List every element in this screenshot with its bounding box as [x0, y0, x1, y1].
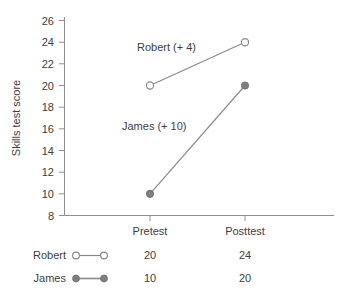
y-tick-label-10: 10 — [42, 188, 54, 200]
annotation-robert: Robert (+ 4) — [137, 41, 196, 53]
legend-marker-robert-right-open-circle-icon — [101, 252, 108, 259]
data-point-james-pretest[interactable] — [146, 190, 153, 197]
y-tick-label-14: 14 — [42, 145, 54, 157]
legend-key-james — [73, 275, 108, 282]
data-point-robert-posttest[interactable] — [241, 39, 248, 46]
y-tick-label-22: 22 — [42, 58, 54, 70]
axes-group — [59, 17, 334, 221]
legend-row-james[interactable]: James 10 20 — [34, 272, 252, 284]
annotation-james: James (+ 10) — [122, 120, 187, 132]
legend-key-robert — [73, 252, 108, 259]
skills-test-score-line-chart: 26 24 22 20 18 16 14 12 10 8 Skills test… — [0, 0, 345, 300]
legend-label-james: James — [34, 272, 67, 284]
y-tick-label-12: 12 — [42, 166, 54, 178]
y-tick-label-24: 24 — [42, 36, 54, 48]
y-tick-label-16: 16 — [42, 123, 54, 135]
legend-marker-james-left-filled-circle-icon — [73, 275, 80, 282]
y-tick-label-20: 20 — [42, 80, 54, 92]
legend-value-robert-posttest: 24 — [239, 249, 251, 261]
series-james — [146, 82, 248, 197]
legend-value-james-posttest: 20 — [239, 272, 251, 284]
legend-row-robert[interactable]: Robert 20 24 — [33, 249, 251, 261]
x-axis-label-pretest: Pretest — [133, 225, 168, 237]
y-tick-label-8: 8 — [48, 210, 54, 222]
data-point-james-posttest[interactable] — [241, 82, 248, 89]
y-tick-label-26: 26 — [42, 15, 54, 27]
x-axis-label-posttest: Posttest — [225, 225, 265, 237]
legend-value-james-pretest: 10 — [144, 272, 156, 284]
series-james-line — [150, 86, 245, 194]
legend-marker-robert-left-open-circle-icon — [73, 252, 80, 259]
y-axis-title: Skills test score — [10, 80, 22, 156]
data-point-robert-pretest[interactable] — [146, 82, 153, 89]
y-tick-labels: 26 24 22 20 18 16 14 12 10 8 — [42, 15, 54, 222]
legend-marker-james-right-filled-circle-icon — [101, 275, 108, 282]
legend-label-robert: Robert — [33, 249, 66, 261]
chart-container: 26 24 22 20 18 16 14 12 10 8 Skills test… — [0, 0, 345, 300]
y-tick-label-18: 18 — [42, 101, 54, 113]
legend-value-robert-pretest: 20 — [144, 249, 156, 261]
